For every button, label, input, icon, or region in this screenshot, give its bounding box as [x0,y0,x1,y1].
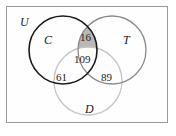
region-count-c-and-t-only: 16 [80,32,91,43]
set-label-d: D [85,103,94,115]
region-count-t-and-d-only: 89 [101,72,112,83]
set-label-c: C [44,34,52,46]
venn-diagram-figure: U C T D 16 109 61 89 [0,0,176,136]
set-label-t: T [123,34,130,46]
region-count-c-and-t-and-d: 109 [74,54,91,65]
region-count-c-and-d-only: 61 [56,72,67,83]
universe-label: U [20,16,29,28]
